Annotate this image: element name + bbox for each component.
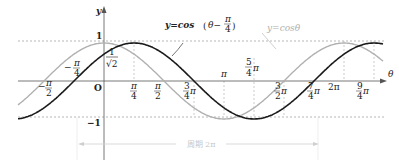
tick-5pi-4: 5 4 π	[245, 57, 260, 78]
svg-text:π: π	[45, 78, 53, 88]
y-axis-arrow-icon	[102, 6, 107, 13]
svg-text:2: 2	[275, 91, 281, 101]
svg-text:4: 4	[131, 91, 137, 101]
y-axis-label: y	[95, 6, 102, 16]
svg-text:(: (	[203, 21, 207, 31]
svg-text:√2: √2	[106, 59, 117, 69]
x-axis-label: θ	[388, 69, 394, 79]
tick-pi-2: π 2	[154, 81, 162, 101]
tick-2pi: 2π	[328, 82, 340, 92]
svg-text:π: π	[224, 14, 232, 24]
y-tick-minus1: −1	[87, 118, 101, 128]
svg-text:1: 1	[109, 47, 115, 57]
tick-3pi-4: 3 4 π	[183, 81, 197, 101]
svg-text:−: −	[38, 81, 46, 91]
vertical-guides	[134, 41, 374, 117]
tick-7pi-4: 7 4 π	[307, 81, 321, 101]
svg-text:5: 5	[246, 57, 252, 67]
svg-text:2: 2	[46, 88, 52, 98]
svg-text:): )	[232, 21, 236, 31]
svg-text:π: π	[280, 86, 288, 96]
legend-cos: y=cosθ	[266, 23, 301, 33]
svg-text:π: π	[130, 81, 138, 91]
svg-text:π: π	[189, 86, 197, 96]
legend-shifted-cos: y=cos ( θ− π 4 )	[164, 14, 236, 34]
svg-text:y=cos: y=cos	[164, 20, 194, 30]
tick-pi: π	[220, 69, 228, 79]
svg-text:π: π	[313, 86, 321, 96]
tick-pi-4: π 4	[130, 81, 138, 101]
svg-text:π: π	[252, 63, 260, 73]
x-axis-arrow-icon	[380, 79, 387, 84]
tick-9pi-4: 9 4 π	[356, 81, 370, 101]
tick-neg-pi-2: − π 2	[38, 78, 53, 98]
svg-text:π: π	[362, 86, 370, 96]
svg-text:π: π	[154, 81, 162, 91]
x-tick-labels: − π 2 − π 4 π 4 π 2 3 4 π	[38, 57, 370, 101]
svg-text:2: 2	[155, 91, 161, 101]
y-tick-inv-sqrt2: 1 √2	[106, 47, 118, 69]
period-label: 周期 2π	[187, 140, 216, 149]
tick-neg-pi-4: − π 4	[64, 58, 81, 78]
period-arrow: 周期 2π	[78, 140, 319, 149]
svg-text:4: 4	[225, 24, 231, 34]
y-tick-1: 1	[96, 31, 102, 41]
svg-text:θ−: θ−	[208, 20, 221, 30]
origin-label: O	[94, 83, 102, 93]
svg-text:4: 4	[74, 68, 80, 78]
chart-canvas: 周期 2π y θ O 1 −1 1 √2 y=cos ( θ− π 4 ) y…	[0, 0, 399, 168]
svg-text:π: π	[73, 58, 81, 68]
svg-text:4: 4	[246, 68, 252, 78]
svg-text:−: −	[64, 62, 72, 72]
